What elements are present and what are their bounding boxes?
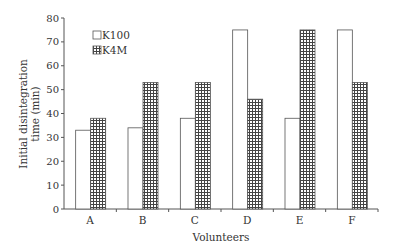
legend-swatch-k4m [93, 46, 101, 54]
legend: K100K4M [93, 29, 130, 56]
bar-k100-c [180, 118, 195, 209]
x-tick-label: C [191, 214, 199, 226]
y-tick-label: 60 [46, 60, 59, 71]
bar-k4m-e [300, 30, 315, 209]
bar-k4m-d [248, 99, 263, 209]
x-tick-label: D [243, 214, 251, 226]
legend-label: K4M [102, 44, 128, 56]
y-tick-label: 10 [46, 180, 59, 191]
bars [76, 30, 368, 209]
x-tick-label: B [139, 214, 147, 226]
y-tick-label: 40 [46, 108, 59, 119]
y-axis-label-line: time (min) [29, 86, 41, 141]
y-tick-label: 70 [46, 36, 59, 47]
y-axis: 01020304050607080 [46, 13, 64, 215]
bar-k4m-a [91, 118, 106, 209]
bar-k100-b [128, 128, 143, 209]
x-axis: ABCDEF [64, 209, 378, 226]
bar-k4m-f [352, 82, 367, 209]
bar-k100-d [233, 30, 248, 209]
y-tick-label: 80 [46, 13, 59, 24]
y-tick-label: 20 [46, 156, 59, 167]
bar-k4m-b [143, 82, 158, 209]
y-tick-label: 50 [46, 84, 59, 95]
y-tick-label: 0 [53, 204, 59, 215]
y-axis-label-line: Initial disintegration [17, 59, 29, 169]
y-axis-label: Initial disintegrationtime (min) [17, 59, 41, 169]
bar-k100-f [337, 30, 352, 209]
bar-k100-e [285, 118, 300, 209]
x-tick-label: A [85, 214, 94, 226]
bar-k100-a [76, 130, 91, 209]
bar-chart: 01020304050607080 ABCDEF K100K4M Volunte… [0, 0, 397, 252]
legend-label: K100 [102, 29, 130, 41]
legend-swatch-k100 [93, 31, 101, 39]
x-tick-label: E [296, 214, 304, 226]
x-tick-label: F [348, 214, 355, 226]
x-axis-label: Volunteers [192, 231, 250, 243]
y-tick-label: 30 [46, 132, 59, 143]
bar-k4m-c [195, 82, 210, 209]
